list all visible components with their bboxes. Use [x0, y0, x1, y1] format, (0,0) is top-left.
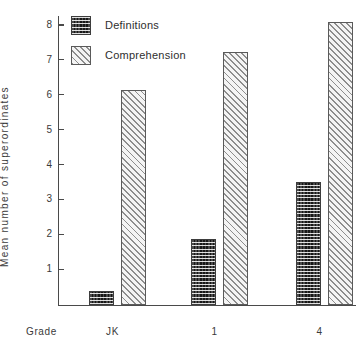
legend-item-comprehension: Comprehension: [71, 45, 186, 65]
y-tick-4: 4: [58, 164, 64, 165]
bar-chart: Mean number of superordinates 12345678 D…: [0, 0, 360, 353]
legend: Definitions Comprehension: [71, 15, 186, 75]
bar-1-comprehension: [223, 52, 248, 305]
x-axis-line: [58, 305, 356, 306]
y-tick-label-7: 7: [46, 55, 52, 65]
y-tick-3: 3: [58, 199, 64, 200]
y-tick-5: 5: [58, 129, 64, 130]
bar-JK-comprehension: [121, 90, 146, 304]
legend-item-definitions: Definitions: [71, 15, 186, 35]
x-axis-labels: Grade JK14: [0, 326, 360, 344]
x-axis-label-JK: JK: [106, 326, 119, 337]
y-tick-label-6: 6: [46, 90, 52, 100]
y-tick-6: 6: [58, 94, 64, 95]
bar-1-definitions: [191, 239, 216, 305]
legend-label-comprehension: Comprehension: [105, 49, 186, 61]
y-tick-label-2: 2: [46, 229, 52, 239]
y-tick-label-3: 3: [46, 194, 52, 204]
y-tick-label-5: 5: [46, 125, 52, 135]
y-tick-1: 1: [58, 269, 64, 270]
y-tick-8: 8: [58, 24, 64, 25]
x-axis-title: Grade: [26, 326, 57, 337]
x-axis-label-1: 1: [211, 326, 217, 337]
y-tick-label-1: 1: [46, 264, 52, 274]
y-tick-7: 7: [58, 59, 64, 60]
bar-JK-definitions: [89, 291, 114, 305]
legend-swatch-definitions-icon: [71, 16, 91, 35]
legend-swatch-comprehension-icon: [71, 46, 91, 65]
y-tick-2: 2: [58, 234, 64, 235]
bar-4-definitions: [296, 182, 321, 305]
y-axis-title: Mean number of superordinates: [0, 0, 22, 353]
y-tick-label-8: 8: [46, 20, 52, 30]
y-tick-label-4: 4: [46, 160, 52, 170]
x-axis-label-4: 4: [316, 326, 322, 337]
bar-4-comprehension: [328, 22, 353, 304]
legend-label-definitions: Definitions: [105, 19, 159, 31]
